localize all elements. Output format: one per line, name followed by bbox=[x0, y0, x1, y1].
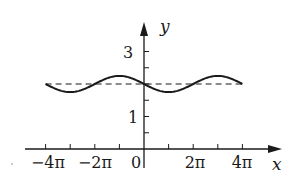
stray-dot bbox=[11, 163, 13, 165]
x-tick-label-neg2pi: −2π bbox=[78, 153, 112, 172]
chart: y x 3 1 −4π −2π 0 2π 4π bbox=[0, 0, 296, 191]
y-ticks bbox=[144, 52, 149, 133]
x-tick-label-zero: 0 bbox=[131, 153, 141, 172]
x-tick-label-4pi: 4π bbox=[232, 153, 253, 172]
chart-svg: y x 3 1 −4π −2π 0 2π 4π bbox=[0, 0, 296, 191]
y-tick-label-1: 1 bbox=[128, 108, 138, 127]
x-tick-label-2pi: 2π bbox=[185, 153, 206, 172]
x-axis-label: x bbox=[272, 154, 282, 174]
y-axis-label: y bbox=[159, 16, 170, 36]
y-tick-label-3: 3 bbox=[123, 43, 133, 62]
y-axis-arrow-icon bbox=[140, 22, 148, 36]
x-tick-label-neg4pi: −4π bbox=[31, 153, 65, 172]
x-axis-arrow-icon bbox=[268, 145, 282, 153]
